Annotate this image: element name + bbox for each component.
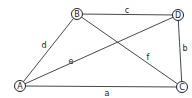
edge-label-d: d <box>41 41 46 50</box>
node-c: C <box>177 82 188 93</box>
node-a: A <box>15 81 26 92</box>
edge-f <box>77 14 182 87</box>
edge-e <box>20 15 178 86</box>
edge-label-c: c <box>125 6 129 15</box>
node-b: B <box>72 9 83 20</box>
svg-text:D: D <box>175 11 181 20</box>
edge-label-f: f <box>147 53 150 62</box>
edge-label-b: b <box>182 44 187 53</box>
graph-diagram: d c b a e f A B D C <box>0 0 192 97</box>
edge-b <box>178 15 182 87</box>
edge-d <box>20 14 77 86</box>
node-d: D <box>173 10 184 21</box>
svg-text:A: A <box>17 82 23 91</box>
edge-a <box>20 86 182 87</box>
svg-text:B: B <box>74 10 80 19</box>
edge-label-e: e <box>69 57 74 66</box>
svg-text:C: C <box>179 83 185 92</box>
edge-label-a: a <box>105 89 110 98</box>
